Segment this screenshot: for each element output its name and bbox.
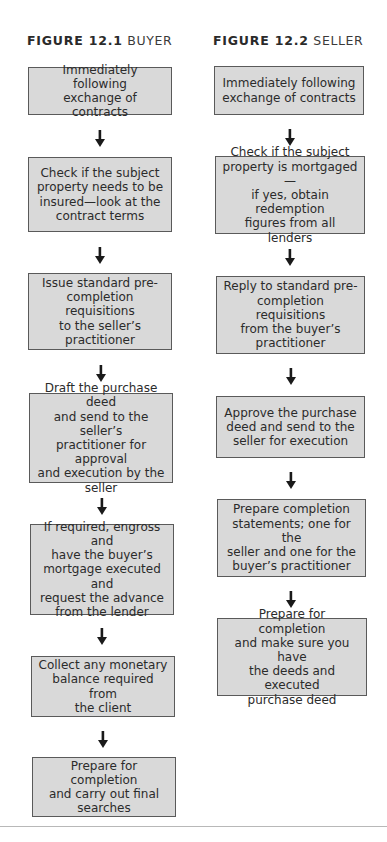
flow-step-seller-1: Immediately following exchange of contra… bbox=[214, 66, 364, 115]
arrow-down-icon bbox=[286, 368, 296, 385]
figure-label: SELLER bbox=[313, 33, 363, 48]
step-text: Immediately following exchange of contra… bbox=[222, 76, 356, 104]
step-text: Collect any monetary balance required fr… bbox=[38, 658, 168, 715]
flow-step-buyer-6: Collect any monetary balance required fr… bbox=[31, 656, 175, 717]
arrow-down-icon bbox=[98, 731, 108, 748]
flow-step-seller-2: Check if the subject property is mortgag… bbox=[215, 156, 365, 234]
step-text: Check if the subject property needs to b… bbox=[37, 166, 163, 223]
figure-title-seller: FIGURE 12.2 SELLER bbox=[213, 33, 363, 48]
step-text: Prepare for completion and make sure you… bbox=[224, 607, 360, 706]
flow-step-buyer-4: Draft the purchase deed and send to the … bbox=[29, 393, 173, 483]
flow-step-seller-6: Prepare for completion and make sure you… bbox=[217, 618, 367, 696]
flow-step-seller-5: Prepare completion statements; one for t… bbox=[217, 499, 366, 577]
step-text: Reply to standard pre- completion requis… bbox=[223, 279, 358, 350]
arrow-down-icon bbox=[95, 247, 105, 264]
flow-step-buyer-2: Check if the subject property needs to b… bbox=[28, 157, 172, 232]
arrow-down-icon bbox=[286, 472, 296, 489]
flow-step-seller-4: Approve the purchase deed and send to th… bbox=[216, 396, 365, 458]
flow-step-buyer-5: If required, engross and have the buyer’… bbox=[30, 524, 174, 615]
step-text: Issue standard pre- completion requisiti… bbox=[35, 276, 165, 347]
step-text: Prepare for completion and carry out fin… bbox=[39, 759, 169, 816]
step-text: Prepare completion statements; one for t… bbox=[224, 502, 359, 573]
arrow-down-icon bbox=[97, 628, 107, 645]
step-text: If required, engross and have the buyer’… bbox=[37, 520, 167, 619]
figure-number: FIGURE 12.1 bbox=[27, 33, 123, 48]
arrow-down-icon bbox=[286, 591, 296, 608]
step-text: Check if the subject property is mortgag… bbox=[222, 145, 358, 244]
flow-step-buyer-1: Immediately following exchange of contra… bbox=[28, 67, 172, 115]
step-text: Draft the purchase deed and send to the … bbox=[36, 381, 166, 495]
flow-step-buyer-3: Issue standard pre- completion requisiti… bbox=[28, 273, 172, 350]
flow-step-buyer-7: Prepare for completion and carry out fin… bbox=[32, 757, 176, 817]
arrow-down-icon bbox=[95, 130, 105, 147]
page-divider bbox=[0, 826, 387, 827]
figure-number: FIGURE 12.2 bbox=[213, 33, 309, 48]
arrow-down-icon bbox=[285, 129, 295, 146]
flow-step-seller-3: Reply to standard pre- completion requis… bbox=[216, 276, 365, 354]
arrow-down-icon bbox=[97, 498, 107, 515]
arrow-down-icon bbox=[285, 249, 295, 266]
figure-title-buyer: FIGURE 12.1 BUYER bbox=[27, 33, 172, 48]
step-text: Approve the purchase deed and send to th… bbox=[224, 406, 356, 449]
arrow-down-icon bbox=[96, 365, 106, 382]
step-text: Immediately following exchange of contra… bbox=[35, 63, 165, 120]
figure-label: BUYER bbox=[127, 33, 172, 48]
